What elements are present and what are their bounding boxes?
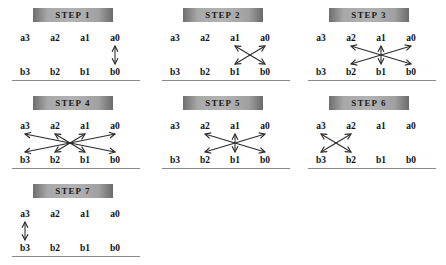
panel-baseline	[308, 168, 436, 169]
label-b2: b2	[340, 154, 362, 166]
step-header: STEP 3	[329, 8, 409, 22]
bottom-label-row: b3b2b1b0	[164, 154, 284, 166]
label-a3: a3	[164, 120, 186, 132]
label-b1: b1	[74, 154, 96, 166]
label-a3: a3	[14, 120, 36, 132]
label-a3: a3	[164, 32, 186, 44]
bottom-label-row: b3b2b1b0	[14, 242, 134, 254]
label-a2: a2	[340, 32, 362, 44]
label-b0: b0	[400, 66, 422, 78]
panel-step-5: STEP 5a3a2a1a0b3b2b1b0	[150, 88, 295, 176]
label-a0: a0	[400, 120, 422, 132]
panel-baseline	[12, 256, 140, 257]
label-a2: a2	[340, 120, 362, 132]
label-a3: a3	[310, 120, 332, 132]
arrow-a1-b0	[235, 46, 265, 64]
label-a1: a1	[74, 120, 96, 132]
panel-step-4: STEP 4a3a2a1a0b3b2b1b0	[0, 88, 145, 176]
label-a2: a2	[44, 120, 66, 132]
arrow-a3-b0	[25, 134, 115, 152]
top-label-row: a3a2a1a0	[14, 32, 134, 44]
label-a3: a3	[310, 32, 332, 44]
label-b0: b0	[104, 242, 126, 254]
label-b1: b1	[370, 154, 392, 166]
label-b1: b1	[74, 66, 96, 78]
step-header: STEP 1	[33, 8, 113, 22]
panel-baseline	[12, 168, 140, 169]
bottom-label-row: b3b2b1b0	[164, 66, 284, 78]
label-b0: b0	[400, 154, 422, 166]
label-b2: b2	[44, 154, 66, 166]
label-b0: b0	[254, 154, 276, 166]
arrow-a2-b0	[205, 134, 265, 152]
panel-baseline	[12, 80, 140, 81]
label-b3: b3	[14, 242, 36, 254]
step-header: STEP 4	[33, 96, 113, 110]
label-a0: a0	[254, 32, 276, 44]
label-a2: a2	[194, 120, 216, 132]
label-b3: b3	[14, 154, 36, 166]
top-label-row: a3a2a1a0	[164, 120, 284, 132]
arrow-a1-b2	[55, 134, 85, 152]
bottom-label-row: b3b2b1b0	[14, 66, 134, 78]
label-a2: a2	[194, 32, 216, 44]
panel-step-7: STEP 7a3a2a1a0b3b2b1b0	[0, 176, 145, 264]
top-label-row: a3a2a1a0	[14, 120, 134, 132]
label-b0: b0	[104, 66, 126, 78]
label-b3: b3	[14, 66, 36, 78]
label-b2: b2	[194, 66, 216, 78]
top-label-row: a3a2a1a0	[310, 120, 430, 132]
arrow-a2-b0	[351, 46, 411, 64]
label-b2: b2	[340, 66, 362, 78]
label-a2: a2	[44, 208, 66, 220]
step-header: STEP 2	[183, 8, 263, 22]
label-a0: a0	[104, 208, 126, 220]
label-a1: a1	[74, 32, 96, 44]
panel-baseline	[162, 80, 290, 81]
step-header: STEP 6	[329, 96, 409, 110]
arrow-a0-b3	[25, 134, 115, 152]
label-b0: b0	[254, 66, 276, 78]
arrow-a0-b2	[205, 134, 265, 152]
label-b1: b1	[370, 66, 392, 78]
bottom-label-row: b3b2b1b0	[14, 154, 134, 166]
label-a1: a1	[224, 32, 246, 44]
arrow-a0-b2	[351, 46, 411, 64]
panel-step-1: STEP 1a3a2a1a0b3b2b1b0	[0, 0, 145, 88]
panel-baseline	[308, 80, 436, 81]
panel-baseline	[162, 168, 290, 169]
label-b3: b3	[164, 154, 186, 166]
label-a2: a2	[44, 32, 66, 44]
label-a0: a0	[254, 120, 276, 132]
label-b1: b1	[74, 242, 96, 254]
label-a1: a1	[224, 120, 246, 132]
label-a3: a3	[14, 208, 36, 220]
step-header: STEP 7	[33, 184, 113, 198]
label-a0: a0	[104, 120, 126, 132]
panel-step-6: STEP 6a3a2a1a0b3b2b1b0	[296, 88, 441, 176]
arrow-a2-b3	[321, 134, 351, 152]
panel-step-2: STEP 2a3a2a1a0b3b2b1b0	[150, 0, 295, 88]
label-b3: b3	[310, 66, 332, 78]
steps-diagram: STEP 1a3a2a1a0b3b2b1b0STEP 2a3a2a1a0b3b2…	[0, 0, 446, 265]
label-b2: b2	[44, 242, 66, 254]
label-a3: a3	[14, 32, 36, 44]
arrow-a2-b1	[55, 134, 85, 152]
label-a0: a0	[400, 32, 422, 44]
label-b3: b3	[164, 66, 186, 78]
label-b1: b1	[224, 66, 246, 78]
label-b0: b0	[104, 154, 126, 166]
panel-step-3: STEP 3a3a2a1a0b3b2b1b0	[296, 0, 441, 88]
bottom-label-row: b3b2b1b0	[310, 154, 430, 166]
label-b2: b2	[194, 154, 216, 166]
label-b3: b3	[310, 154, 332, 166]
arrow-a3-b2	[321, 134, 351, 152]
label-a0: a0	[104, 32, 126, 44]
label-a1: a1	[370, 32, 392, 44]
label-b1: b1	[224, 154, 246, 166]
step-header: STEP 5	[183, 96, 263, 110]
top-label-row: a3a2a1a0	[164, 32, 284, 44]
label-a1: a1	[74, 208, 96, 220]
top-label-row: a3a2a1a0	[310, 32, 430, 44]
label-b2: b2	[44, 66, 66, 78]
